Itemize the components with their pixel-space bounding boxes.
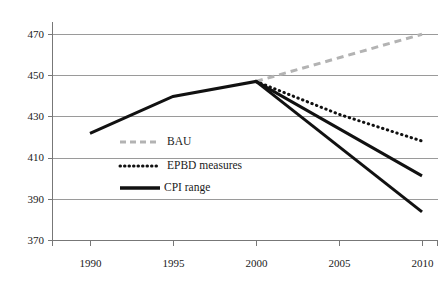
y-tick-label-390: 390 (14, 194, 44, 205)
y-tick-label-410: 410 (14, 152, 44, 163)
y-tick-label-470: 470 (14, 29, 44, 40)
x-tick-label-2000: 2000 (234, 258, 279, 269)
y-tick-label-430: 430 (14, 111, 44, 122)
x-tick-label-1990: 1990 (68, 258, 113, 269)
x-tick-label-2010: 2010 (400, 258, 445, 269)
x-tick-label-2005: 2005 (317, 258, 362, 269)
legend-label-bau: BAU (167, 136, 191, 148)
legend-label-epbd-measures: EPBD measures (167, 160, 242, 172)
chart-plot-area (0, 0, 447, 286)
legend-label-cpi-range: CPI range (164, 182, 210, 194)
y-tick-label-370: 370 (14, 235, 44, 246)
x-tick-label-1995: 1995 (151, 258, 196, 269)
chart-container: 470 450 430 410 390 370 1990 1995 2000 2… (0, 0, 447, 286)
plot-background (0, 0, 447, 286)
y-tick-label-450: 450 (14, 70, 44, 81)
